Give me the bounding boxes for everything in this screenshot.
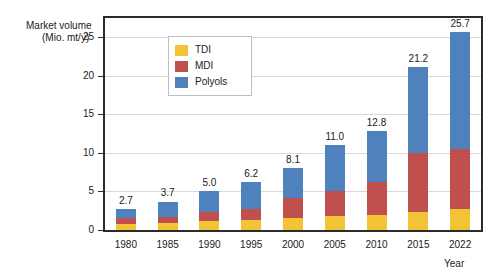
bar-segment-polyols (116, 209, 136, 218)
bar-segment-mdi (158, 217, 178, 223)
bar-value-label: 25.7 (440, 19, 480, 29)
plot-area (103, 16, 483, 232)
x-tick-label: 1990 (187, 240, 231, 250)
legend-swatch-mdi (175, 61, 188, 72)
x-tick-label: 2000 (271, 240, 315, 250)
bar-segment-tdi (116, 224, 136, 230)
y-axis-title: Market volume (26, 20, 92, 32)
bar-segment-mdi (325, 191, 345, 216)
bar-segment-mdi (283, 198, 303, 217)
bar-stack (450, 32, 470, 230)
bar-value-label: 8.1 (273, 155, 313, 165)
bar-segment-tdi (158, 223, 178, 230)
x-tick-label: 1985 (146, 240, 190, 250)
x-tick-label: 2022 (438, 240, 482, 250)
legend-label-polyols: Polyols (195, 77, 227, 87)
bar-segment-tdi (283, 218, 303, 230)
legend-swatch-tdi (175, 45, 188, 56)
bar-segment-tdi (241, 220, 261, 230)
bar-segment-mdi (367, 182, 387, 214)
bar-stack (158, 201, 178, 230)
bar-segment-polyols (199, 191, 219, 212)
legend-item-mdi: MDI (175, 58, 245, 74)
bar-stack (283, 168, 303, 230)
legend-item-polyols: Polyols (175, 74, 245, 90)
bar-stack (199, 191, 219, 230)
bar-segment-tdi (367, 215, 387, 230)
gridline (105, 37, 481, 38)
bar-segment-tdi (325, 216, 345, 230)
bar-stack (241, 182, 261, 230)
bar-value-label: 6.2 (231, 169, 271, 179)
bar-value-label: 11.0 (315, 132, 355, 142)
bar-value-label: 5.0 (189, 178, 229, 188)
x-tick-label: 2015 (396, 240, 440, 250)
bar-segment-tdi (450, 209, 470, 230)
x-tick-label: 2005 (313, 240, 357, 250)
x-tick-label: 1995 (229, 240, 273, 250)
bar-segment-polyols (325, 145, 345, 191)
bar-value-label: 21.2 (398, 54, 438, 64)
y-tick-label: 0 (70, 225, 94, 235)
bar-value-label: 12.8 (357, 118, 397, 128)
bar-segment-mdi (116, 218, 136, 223)
bar-value-label: 2.7 (106, 196, 146, 206)
bar-segment-polyols (450, 32, 470, 149)
legend-label-tdi: TDI (195, 45, 211, 55)
bar-stack (408, 67, 428, 230)
bar-segment-polyols (241, 182, 261, 209)
bar-segment-tdi (199, 221, 219, 230)
y-tick-label: 15 (70, 109, 94, 119)
y-tick-label: 25 (70, 32, 94, 42)
y-tick-label: 10 (70, 148, 94, 158)
bar-segment-mdi (199, 212, 219, 220)
legend-label-mdi: MDI (195, 61, 213, 71)
x-tick-label: 2010 (355, 240, 399, 250)
legend-item-tdi: TDI (175, 42, 245, 58)
bar-value-label: 3.7 (148, 188, 188, 198)
bar-segment-polyols (367, 131, 387, 182)
y-tick-label: 20 (70, 71, 94, 81)
y-tick-label: 5 (70, 186, 94, 196)
chart-legend: TDI MDI Polyols (168, 36, 252, 96)
bar-segment-polyols (408, 67, 428, 153)
legend-swatch-polyols (175, 77, 188, 88)
chart-figure: Market volume (Mio. mt/y) Year 051015202… (0, 0, 498, 279)
bar-stack (367, 131, 387, 230)
bar-segment-mdi (408, 153, 428, 212)
bar-segment-mdi (450, 149, 470, 209)
bar-segment-mdi (241, 209, 261, 220)
bar-stack (325, 145, 345, 230)
x-axis-title: Year (444, 258, 464, 270)
x-tick-label: 1980 (104, 240, 148, 250)
bar-segment-tdi (408, 212, 428, 231)
bar-stack (116, 209, 136, 230)
bar-segment-polyols (158, 202, 178, 217)
bar-segment-polyols (283, 168, 303, 199)
